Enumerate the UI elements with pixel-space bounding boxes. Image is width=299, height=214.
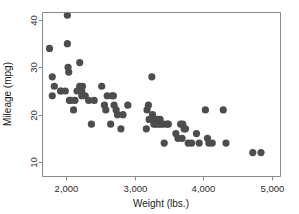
data-point bbox=[178, 135, 185, 142]
data-point bbox=[102, 106, 109, 113]
x-tick-label: 3,000 bbox=[124, 183, 148, 194]
plot-border bbox=[43, 13, 281, 177]
x-tick-label: 5,000 bbox=[261, 183, 285, 194]
data-point bbox=[91, 97, 98, 104]
scatter-plot-figure: 2,0003,0004,0005,000 10203040 Weight (lb… bbox=[0, 0, 299, 214]
x-tick-label: 2,000 bbox=[55, 183, 79, 194]
data-point bbox=[71, 97, 78, 104]
data-point bbox=[65, 68, 72, 75]
y-tick-label: 10 bbox=[28, 157, 39, 168]
data-point bbox=[220, 106, 227, 113]
data-point bbox=[257, 149, 264, 156]
data-point bbox=[88, 121, 95, 128]
data-point bbox=[49, 73, 56, 80]
data-point bbox=[196, 139, 203, 146]
data-point bbox=[98, 83, 105, 90]
data-point bbox=[46, 45, 53, 52]
data-point bbox=[249, 149, 256, 156]
data-point bbox=[79, 83, 86, 90]
x-axis-ticks: 2,0003,0004,0005,000 bbox=[55, 177, 285, 194]
data-point bbox=[161, 139, 168, 146]
y-axis-ticks: 10203040 bbox=[28, 15, 43, 168]
data-point bbox=[76, 59, 83, 66]
data-point bbox=[209, 139, 216, 146]
data-point bbox=[193, 130, 200, 137]
plot-canvas: 2,0003,0004,0005,000 10203040 Weight (lb… bbox=[0, 0, 299, 214]
x-tick-label: 4,000 bbox=[192, 183, 216, 194]
data-point bbox=[62, 87, 69, 94]
data-point bbox=[188, 139, 195, 146]
data-point bbox=[143, 125, 150, 132]
data-point bbox=[107, 121, 114, 128]
data-point bbox=[119, 111, 126, 118]
y-tick-label: 30 bbox=[28, 62, 39, 73]
data-point bbox=[51, 83, 58, 90]
y-tick-label: 20 bbox=[28, 110, 39, 121]
data-point bbox=[222, 139, 229, 146]
data-point bbox=[117, 125, 124, 132]
data-point bbox=[49, 92, 56, 99]
y-axis-title: Mileage (mpg) bbox=[2, 62, 13, 126]
data-point bbox=[124, 102, 131, 109]
data-point bbox=[165, 121, 172, 128]
plot-frame bbox=[43, 13, 281, 177]
data-point bbox=[145, 102, 152, 109]
data-point bbox=[202, 106, 209, 113]
data-point bbox=[110, 92, 117, 99]
y-tick-label: 40 bbox=[28, 15, 39, 26]
data-point bbox=[64, 40, 71, 47]
data-point bbox=[70, 106, 77, 113]
data-point bbox=[148, 73, 155, 80]
data-point bbox=[182, 125, 189, 132]
x-axis-title: Weight (lbs.) bbox=[133, 198, 189, 209]
data-markers-layer bbox=[46, 12, 265, 156]
